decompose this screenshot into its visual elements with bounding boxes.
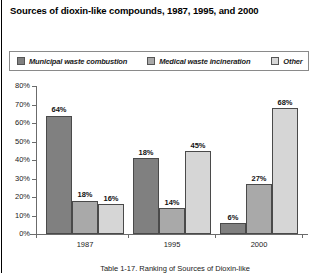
legend-item-medical-waste-incineration: Medical waste incineration: [147, 57, 250, 66]
bar-1995-medical-waste-incineration: [159, 208, 185, 234]
plot-area: 80% 70% 60% 50% 40% 30% 20% 10% 0% 64% 1…: [36, 86, 308, 234]
y-tick-label-40: 40%: [2, 156, 30, 164]
bar-1987-medical-waste-incineration: [72, 201, 98, 234]
bar-label-1995-medical-waste-incineration: 14%: [159, 199, 185, 207]
bar-1995-municipal-waste-combustion: [133, 158, 159, 234]
x-tick-mark-left: [36, 234, 37, 238]
y-tick-label-30: 30%: [2, 175, 30, 183]
y-tick-label-80: 80%: [2, 82, 30, 90]
bar-2000-medical-waste-incineration: [246, 184, 272, 234]
bar-group-1987: 64% 18% 16%: [46, 86, 124, 234]
y-tick-label-70: 70%: [2, 101, 30, 109]
y-tick-label-0: 0%: [2, 230, 30, 238]
x-tick-mark-1995: [215, 234, 216, 238]
bar-label-2000-medical-waste-incineration: 27%: [246, 175, 272, 183]
bar-group-2000: 6% 27% 68%: [220, 86, 298, 234]
bar-1995-other: [185, 151, 211, 234]
bar-1987-municipal-waste-combustion: [46, 116, 72, 234]
legend-label-other: Other: [283, 57, 302, 66]
y-tick-label-20: 20%: [2, 193, 30, 201]
bar-2000-other: [272, 108, 298, 234]
bar-2000-municipal-waste-combustion: [220, 223, 246, 234]
bar-label-1995-other: 45%: [185, 142, 211, 150]
bar-label-2000-municipal-waste-combustion: 6%: [220, 214, 246, 222]
bar-label-1987-other: 16%: [98, 195, 124, 203]
y-tick-label-60: 60%: [2, 119, 30, 127]
y-tick-label-10: 10%: [2, 212, 30, 220]
bar-1987-other: [98, 204, 124, 234]
bar-groups: 64% 18% 16% 18% 14% 45% 6% 27%: [36, 86, 308, 234]
legend-label-municipal-waste-combustion: Municipal waste combustion: [29, 57, 127, 66]
chart-figure: Sources of dioxin-like compounds, 1987, …: [0, 0, 318, 273]
x-tick-label-1987: 1987: [46, 240, 124, 249]
x-tick-mark-2000: [302, 234, 303, 238]
bar-label-1987-municipal-waste-combustion: 64%: [46, 106, 72, 114]
legend-item-other: Other: [271, 57, 302, 66]
x-tick-label-2000: 2000: [220, 240, 298, 249]
legend-swatch-medical-waste-incineration: [147, 57, 155, 65]
x-tick-mark-1987: [128, 234, 129, 238]
legend-item-municipal-waste-combustion: Municipal waste combustion: [17, 57, 127, 66]
chart-title: Sources of dioxin-like compounds, 1987, …: [10, 5, 310, 17]
legend-swatch-other: [271, 57, 279, 65]
x-tick-label-1995: 1995: [133, 240, 211, 249]
legend-swatch-municipal-waste-combustion: [17, 57, 25, 65]
x-axis-line: [30, 234, 308, 235]
bar-label-1995-municipal-waste-combustion: 18%: [133, 149, 159, 157]
bar-label-1987-medical-waste-incineration: 18%: [72, 191, 98, 199]
bar-group-1995: 18% 14% 45%: [133, 86, 211, 234]
legend-label-medical-waste-incineration: Medical waste incineration: [159, 57, 250, 66]
chart-caption: Table 1-17. Ranking of Sources of Dioxin…: [36, 264, 314, 273]
bar-label-2000-other: 68%: [272, 99, 298, 107]
chart-legend: Municipal waste combustion Medical waste…: [9, 51, 309, 71]
y-tick-label-50: 50%: [2, 138, 30, 146]
